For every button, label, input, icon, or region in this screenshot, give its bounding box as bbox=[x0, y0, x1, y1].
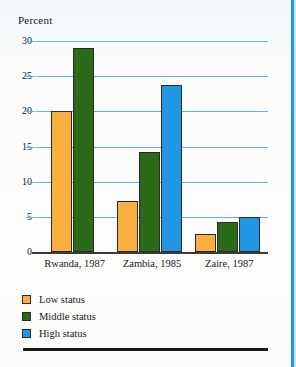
legend-swatch-high-icon bbox=[22, 329, 31, 338]
legend-label-low: Low status bbox=[39, 294, 85, 305]
bar-middle-1 bbox=[139, 152, 160, 252]
legend-swatch-middle-icon bbox=[22, 312, 31, 321]
chart-legend: Low statusMiddle statusHigh status bbox=[22, 292, 222, 343]
y-axis-title: Percent bbox=[18, 14, 52, 26]
bar-low-1 bbox=[117, 201, 138, 252]
legend-item-high: High status bbox=[22, 326, 222, 341]
scanned-page: Percent 051015202530 Rwanda, 1987Zambia,… bbox=[0, 0, 296, 367]
y-tick-mark-15 bbox=[26, 147, 35, 148]
bar-low-2 bbox=[195, 234, 216, 252]
category-label-2: Zaire, 1987 bbox=[191, 258, 268, 269]
plot-area bbox=[36, 41, 268, 252]
legend-label-middle: Middle status bbox=[39, 311, 96, 322]
y-tick-mark-25 bbox=[26, 76, 35, 77]
bar-group bbox=[113, 41, 190, 252]
bar-group bbox=[36, 41, 113, 252]
axis-baseline bbox=[32, 252, 268, 254]
category-label-1: Zambia, 1985 bbox=[113, 258, 190, 269]
footnote-text bbox=[24, 358, 270, 367]
y-tick-label-0: 0 bbox=[14, 247, 32, 257]
y-tick-mark-30 bbox=[26, 41, 35, 42]
bar-low-0 bbox=[51, 111, 72, 252]
bar-high-2 bbox=[239, 217, 260, 252]
y-tick-mark-20 bbox=[26, 111, 35, 112]
bar-group bbox=[191, 41, 268, 252]
y-tick-mark-5 bbox=[26, 217, 35, 218]
footer-divider bbox=[23, 348, 268, 351]
legend-item-low: Low status bbox=[22, 292, 222, 307]
category-label-0: Rwanda, 1987 bbox=[36, 258, 113, 269]
legend-label-high: High status bbox=[39, 328, 87, 339]
bar-high-1 bbox=[161, 85, 182, 252]
legend-swatch-low-icon bbox=[22, 295, 31, 304]
bar-middle-0 bbox=[73, 48, 94, 252]
legend-item-middle: Middle status bbox=[22, 309, 222, 324]
bar-middle-2 bbox=[217, 222, 238, 252]
y-tick-mark-10 bbox=[26, 182, 35, 183]
